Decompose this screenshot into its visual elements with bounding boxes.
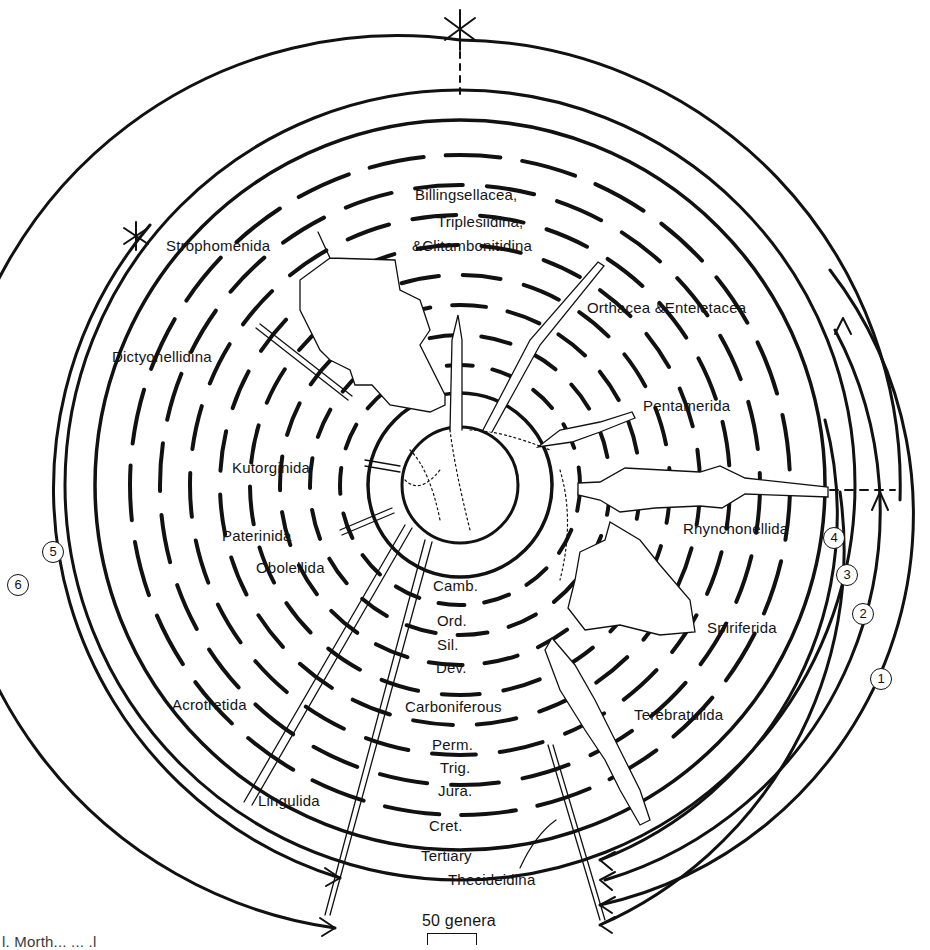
ring-marker-4: 4 xyxy=(823,527,845,549)
scale-bar xyxy=(427,933,477,945)
taxon-label-billingsellacea: Billingsellacea, xyxy=(415,187,517,203)
period-label-ordovician: Ord. xyxy=(437,613,467,629)
period-label-cretaceous: Cret. xyxy=(429,818,463,834)
taxon-label-terebratulida: Terebratulida xyxy=(634,707,723,723)
ring-6-arc xyxy=(0,36,460,928)
period-label-tertiary: Tertiary xyxy=(421,848,472,864)
taxon-label-kutorginida: Kutorginida xyxy=(232,460,310,476)
taxon-label-dictyonellidina: Dictyonellidina xyxy=(112,349,212,365)
period-label-carboniferous: Carboniferous xyxy=(405,699,502,715)
taxon-label-orthacea-enteletacea: Orthacea &Enteletacea xyxy=(587,300,746,316)
taxon-label-obolellida: Obolellida xyxy=(256,560,325,576)
ring-marker-1: 1 xyxy=(870,668,892,690)
period-label-triassic: Trig. xyxy=(440,760,470,776)
taxon-label-strophomenida: Strophomenida xyxy=(166,238,270,254)
top-star xyxy=(445,10,475,50)
period-label-permian: Perm. xyxy=(432,737,473,753)
ring-marker-3: 3 xyxy=(836,564,858,586)
strophomenida-spindle xyxy=(300,232,445,412)
ring-marker-2: 2 xyxy=(852,603,874,625)
period-label-silurian: Sil. xyxy=(437,637,459,653)
period-label-devonian: Dev. xyxy=(436,660,467,676)
taxon-label-clitambonitidina: &Clitambonitidina xyxy=(412,238,532,254)
scale-label: 50 genera xyxy=(422,913,496,929)
taxon-label-triplesiidina: Triplesiidina, xyxy=(437,214,523,230)
period-label-jurassic: Jura. xyxy=(438,783,472,799)
period-label-cambrian: Camb. xyxy=(433,578,478,594)
ring-6-arc-top xyxy=(460,40,900,500)
taxon-label-rhynchonellida: Rhynchonellida xyxy=(683,521,788,537)
ring-marker-5: 5 xyxy=(42,541,64,563)
taxon-label-paterinida: Paterinida xyxy=(222,528,292,544)
taxon-label-spiriferida: Spiriferida xyxy=(707,620,777,636)
taxon-label-acrotretida: Acrotretida xyxy=(172,697,247,713)
taxon-label-thecideidina: Thecideidina xyxy=(448,872,535,888)
taxon-label-lingulida: Lingulida xyxy=(258,793,320,809)
caption-fragment: l. Morth... ... .l xyxy=(2,934,96,950)
ring-marker-6: 6 xyxy=(7,574,29,596)
taxon-label-pentamerida: Pentamerida xyxy=(643,398,730,414)
